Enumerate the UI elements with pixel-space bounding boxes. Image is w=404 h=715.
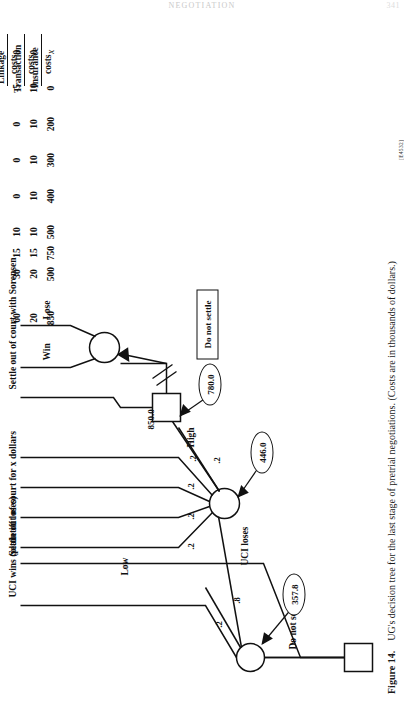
rule-transaction — [24, 34, 25, 86]
hdr-linkage-line2: costs — [9, 54, 19, 74]
chance-node-2 — [209, 488, 239, 518]
cost-value-linkage-row-4: 0 — [13, 158, 23, 163]
decision-node-2 — [152, 393, 180, 421]
label-uci-loses: UCI loses — [240, 526, 250, 565]
branch-c2-b3 — [20, 487, 209, 501]
branch-c2-b2 — [20, 506, 209, 517]
value-oval-c2: 446.0 — [250, 431, 273, 473]
label-high: High — [186, 427, 196, 447]
caption-text: UG's decision tree for the last stage of… — [386, 261, 397, 641]
figure-stage: Insurance costs Transaction costs Linkag… — [0, 0, 404, 715]
branch-d2-donot — [120, 363, 166, 393]
cost-value-transaction-row-5: 10 — [30, 191, 40, 201]
cost-value-linkage-row-2: -5 — [13, 84, 23, 92]
probability-c2-2: .2 — [186, 513, 195, 519]
cost-value-transaction-row-8: 20 — [30, 269, 40, 279]
arrowhead-d2 — [180, 405, 189, 415]
cost-value-insurance-row-3: 200 — [47, 117, 57, 131]
do-not-settle-box: Do not settle — [196, 289, 218, 359]
branch-c1-uciwins — [20, 605, 236, 657]
figure-page: NEGOTIATION 341 — [0, 0, 404, 715]
value-oval-root: 357.8 — [282, 573, 305, 615]
cost-value-linkage-row-9: 60 — [13, 313, 23, 323]
cost-value-linkage-row-7: 15 — [13, 248, 23, 258]
header-insurance-costs-sub: costs — [43, 54, 53, 74]
cost-value-insurance-row-8: 500 — [47, 267, 57, 281]
cost-value-transaction-row-9: 20 — [30, 313, 40, 323]
header-linkage-costs-sub: costs — [9, 54, 19, 74]
hdr-insurance-line2: costs — [43, 54, 53, 74]
header-transaction-costs-sub: costs — [26, 54, 36, 74]
rule-linkage — [7, 34, 8, 86]
header-linkage-costs: Linkage — [0, 51, 6, 84]
hdr-transaction-line2: costs — [26, 54, 36, 74]
probability-c2-5: .2 — [212, 457, 221, 463]
value-label-high-850: 850.0 — [146, 409, 155, 429]
cost-value-transaction-row-3: 10 — [30, 119, 40, 129]
probability-root-08: .8 — [232, 597, 241, 603]
rule-insurance — [41, 34, 42, 86]
cost-value-linkage-row-3: 0 — [13, 122, 23, 127]
arrowhead-c2 — [238, 486, 247, 496]
probability-c2-4: .2 — [188, 455, 197, 461]
cost-value-transaction-row-6: 10 — [30, 227, 40, 237]
cost-value-transaction-row-1: 0 — [30, 50, 40, 55]
hdr-linkage-line1: Linkage — [0, 51, 6, 84]
cost-value-linkage-row-1: 0 — [13, 50, 23, 55]
cost-value-insurance-row-4: 300 — [47, 153, 57, 167]
cost-value-linkage-row-5: 0 — [13, 194, 23, 199]
figure-caption: Figure 14. UG's decision tree for the la… — [386, 261, 397, 694]
cost-value-insurance-row-9: 850 — [47, 311, 57, 325]
branch-c3-win — [20, 358, 95, 367]
cost-value-insurance-row-7: 750 — [47, 246, 57, 260]
cost-value-transaction-row-2: 10 — [30, 83, 40, 93]
cost-value-linkage-row-8: 30 — [13, 269, 23, 279]
value-oval-d2: 780.0 — [198, 363, 221, 405]
cost-value-insurance-row-2: 0 — [47, 86, 57, 91]
label-win: Win — [42, 343, 52, 360]
branch-c1-ucilosos — [205, 587, 240, 647]
cost-value-insurance-row-1: x — [47, 50, 57, 54]
branch-c3-lose — [20, 325, 95, 336]
cost-value-transaction-row-4: 10 — [30, 155, 40, 165]
branch-d2-settle-sorensen — [20, 397, 152, 407]
probability-root-02: .2 — [214, 621, 223, 627]
probability-c2-3: .2 — [186, 483, 195, 489]
chance-node-3 — [89, 332, 119, 362]
label-uci-wins: UCI wins (plaintiff loses) — [8, 496, 18, 597]
probability-c2-1: .2 — [186, 543, 195, 549]
label-low: Low — [120, 557, 130, 575]
cost-value-transaction-row-7: 15 — [30, 248, 40, 258]
root-decision-node — [344, 643, 372, 671]
caption-figure-number: Figure 14. — [386, 651, 397, 694]
caption-code: [E4532] — [398, 140, 404, 160]
cost-value-insurance-row-6: 500 — [47, 225, 57, 239]
cost-value-linkage-row-6: 10 — [13, 227, 23, 237]
cost-value-insurance-row-5: 400 — [47, 189, 57, 203]
